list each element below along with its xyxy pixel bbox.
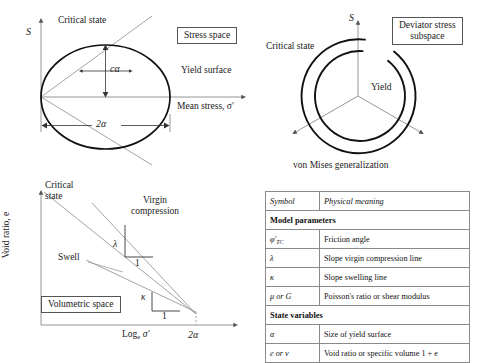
volumetric-x-tick-label: 2α xyxy=(188,329,198,340)
swell-label: Swell xyxy=(58,252,80,262)
volumetric-critical-line1: Critical xyxy=(45,180,74,190)
table-header-meaning: Physical meaning xyxy=(320,192,470,211)
symbol-subscript: TC xyxy=(276,239,283,245)
table-row: α Size of yield surface xyxy=(266,325,470,344)
deviator-yield-label: Yield xyxy=(371,82,392,92)
table-section-state-variables: State variables xyxy=(266,306,470,325)
table-cell-meaning: Void ratio or specific volume 1 + e xyxy=(320,344,470,363)
table-cell-meaning: Slope virgin compression line xyxy=(320,249,470,268)
volumetric-x-axis-log: Log xyxy=(122,329,137,339)
volumetric-critical-line2: state xyxy=(45,191,62,201)
table-row: λ Slope virgin compression line xyxy=(266,249,470,268)
table-cell-symbol: λ xyxy=(266,249,320,268)
volumetric-y-axis-label: Void ratio, e xyxy=(1,212,11,259)
kappa-run-label: 1 xyxy=(162,311,167,321)
yield-surface-label: Yield surface xyxy=(181,65,231,75)
deviator-box-line1: Deviator stress xyxy=(399,20,456,30)
table-cell-symbol: α xyxy=(266,325,320,344)
table-cell-symbol: φ′TC xyxy=(266,230,320,249)
table-header-row: Symbol Physical meaning xyxy=(266,192,470,211)
stress-space-critical-state-label: Critical state xyxy=(58,15,106,25)
volumetric-x-axis-sigma: σ′ xyxy=(143,329,150,339)
lambda-run-label: 1 xyxy=(135,258,140,268)
deviator-critical-state-label: Critical state xyxy=(266,41,314,51)
table-cell-symbol: κ xyxy=(266,268,320,287)
virgin-compression-line1: Virgin xyxy=(143,195,167,205)
deviator-box-line2: subspace xyxy=(410,31,444,41)
stress-space-box-label: Stress space xyxy=(177,27,237,44)
table-section-title: Model parameters xyxy=(266,211,470,230)
von-mises-caption: von Mises generalization xyxy=(293,160,389,170)
table-cell-meaning: Slope swelling line xyxy=(320,268,470,287)
lambda-slope-label: λ xyxy=(113,238,117,249)
parameters-table-body: Symbol Physical meaning Model parameters… xyxy=(266,192,470,363)
table-cell-meaning: Poisson's ratio or shear modulus xyxy=(320,287,470,306)
table-cell-symbol: μ or G xyxy=(266,287,320,306)
dim-2alpha-head-right xyxy=(164,123,170,129)
table-cell-symbol: e or v xyxy=(266,344,320,363)
kappa-slope-triangle xyxy=(152,292,180,311)
parameters-table: Symbol Physical meaning Model parameters… xyxy=(265,191,470,363)
yield-circle xyxy=(315,51,405,141)
volumetric-y-axis-text: Void ratio, e xyxy=(1,212,11,259)
dim-2alpha-label: 2α xyxy=(96,118,106,129)
dim-calpha-label: cα xyxy=(110,63,120,74)
volumetric-critical-state-label: Critical state xyxy=(45,180,74,202)
table-section-model-parameters: Model parameters xyxy=(266,211,470,230)
virgin-compression-line2: compression xyxy=(131,206,179,216)
deviator-y-axis-label: S xyxy=(349,12,354,23)
volumetric-x-axis-sub: e xyxy=(137,333,140,340)
volumetric-space-box-label: Volumetric space xyxy=(41,296,121,313)
volumetric-x-axis-label: Loge σ′ xyxy=(122,329,149,339)
lambda-slope-triangle xyxy=(125,225,153,257)
table-cell-meaning: Size of yield surface xyxy=(320,325,470,344)
table-row: e or v Void ratio or specific volume 1 +… xyxy=(266,344,470,363)
table-row: φ′TC Friction angle xyxy=(266,230,470,249)
table-row: κ Slope swelling line xyxy=(266,268,470,287)
critical-state-line-upper xyxy=(41,16,152,97)
dim-2alpha-head-left xyxy=(42,123,48,129)
table-cell-meaning: Friction angle xyxy=(320,230,470,249)
swell-leader-line xyxy=(88,262,123,272)
table-section-title: State variables xyxy=(266,306,470,325)
deviator-subspace-box-label: Deviator stress subspace xyxy=(392,17,463,45)
table-row: μ or G Poisson's ratio or shear modulus xyxy=(266,287,470,306)
virgin-compression-label: Virgin compression xyxy=(131,195,179,217)
table-header-symbol: Symbol xyxy=(266,192,320,211)
stress-space-y-axis-label: S xyxy=(26,26,31,37)
kappa-slope-label: κ xyxy=(141,292,146,302)
mean-stress-axis-label: Mean stress, σ′ xyxy=(177,101,234,111)
